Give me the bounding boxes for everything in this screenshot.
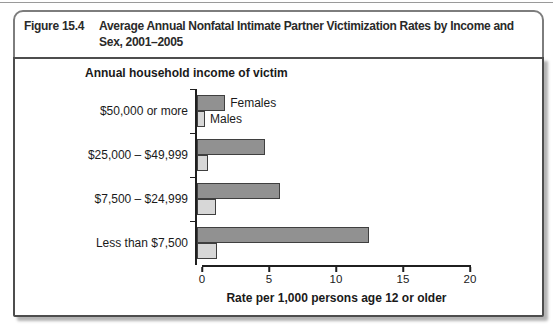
x-axis-tick — [402, 267, 404, 272]
bar-line — [197, 139, 542, 155]
y-axis-tick — [190, 221, 195, 223]
y-axis-tick — [190, 177, 195, 179]
x-axis-tick — [201, 267, 203, 272]
bar-line: Females — [197, 95, 542, 111]
x-axis-tick-label: 5 — [266, 273, 272, 285]
category-label: $25,000 – $49,999 — [15, 133, 195, 177]
figure-number-label: Figure 15.4 — [24, 19, 84, 51]
bar-females — [197, 95, 225, 111]
page-edge-rule — [0, 2, 553, 3]
x-axis-tick-label: 10 — [330, 273, 343, 285]
bar-pair — [195, 133, 542, 177]
bar-males — [197, 199, 216, 215]
bar-line — [197, 227, 542, 243]
x-axis-tick-label: 0 — [199, 273, 205, 285]
bar-group: $25,000 – $49,999 — [15, 133, 542, 177]
y-axis-title: Annual household income of victim — [85, 66, 542, 81]
x-axis-title: Rate per 1,000 persons age 12 or older — [202, 291, 471, 305]
y-axis-tick — [190, 89, 195, 91]
bar-group: Less than $7,500 — [15, 221, 542, 265]
bar-pair — [195, 221, 542, 265]
x-axis-tick — [268, 267, 270, 272]
bar-line — [197, 199, 542, 215]
y-axis-tick — [190, 133, 195, 135]
bar-males — [197, 243, 217, 259]
bar-females — [197, 183, 280, 199]
figure-container: Figure 15.4 Average Annual Nonfatal Inti… — [0, 0, 553, 324]
bar-group: $7,500 – $24,999 — [15, 177, 542, 221]
bar-line: Males — [197, 111, 542, 127]
figure-caption: Figure 15.4 Average Annual Nonfatal Inti… — [15, 12, 542, 57]
figure-frame: Figure 15.4 Average Annual Nonfatal Inti… — [13, 10, 544, 317]
bar-line — [197, 155, 542, 171]
category-label: Less than $7,500 — [15, 221, 195, 265]
bar-line — [197, 243, 542, 259]
x-axis-tick — [335, 267, 337, 272]
figure-title: Average Annual Nonfatal Intimate Partner… — [99, 19, 534, 51]
legend-label-females: Females — [230, 96, 276, 110]
bar-females — [197, 227, 369, 243]
chart-rows: $50,000 or moreFemalesMales$25,000 – $49… — [15, 89, 542, 265]
bar-males — [197, 155, 208, 171]
x-axis: 05101520 — [202, 265, 471, 289]
bar-line — [197, 183, 542, 199]
category-label: $7,500 – $24,999 — [15, 177, 195, 221]
bar-males — [197, 111, 205, 127]
bar-females — [197, 139, 265, 155]
bar-group: $50,000 or moreFemalesMales — [15, 89, 542, 133]
chart-panel: Annual household income of victim $50,00… — [13, 57, 544, 317]
x-axis-tick — [469, 267, 471, 272]
bar-pair — [195, 177, 542, 221]
legend-label-males: Males — [210, 112, 242, 126]
category-label: $50,000 or more — [15, 89, 195, 133]
bar-pair: FemalesMales — [195, 89, 542, 133]
x-axis-tick-label: 20 — [464, 273, 477, 285]
x-axis-tick-label: 15 — [397, 273, 410, 285]
